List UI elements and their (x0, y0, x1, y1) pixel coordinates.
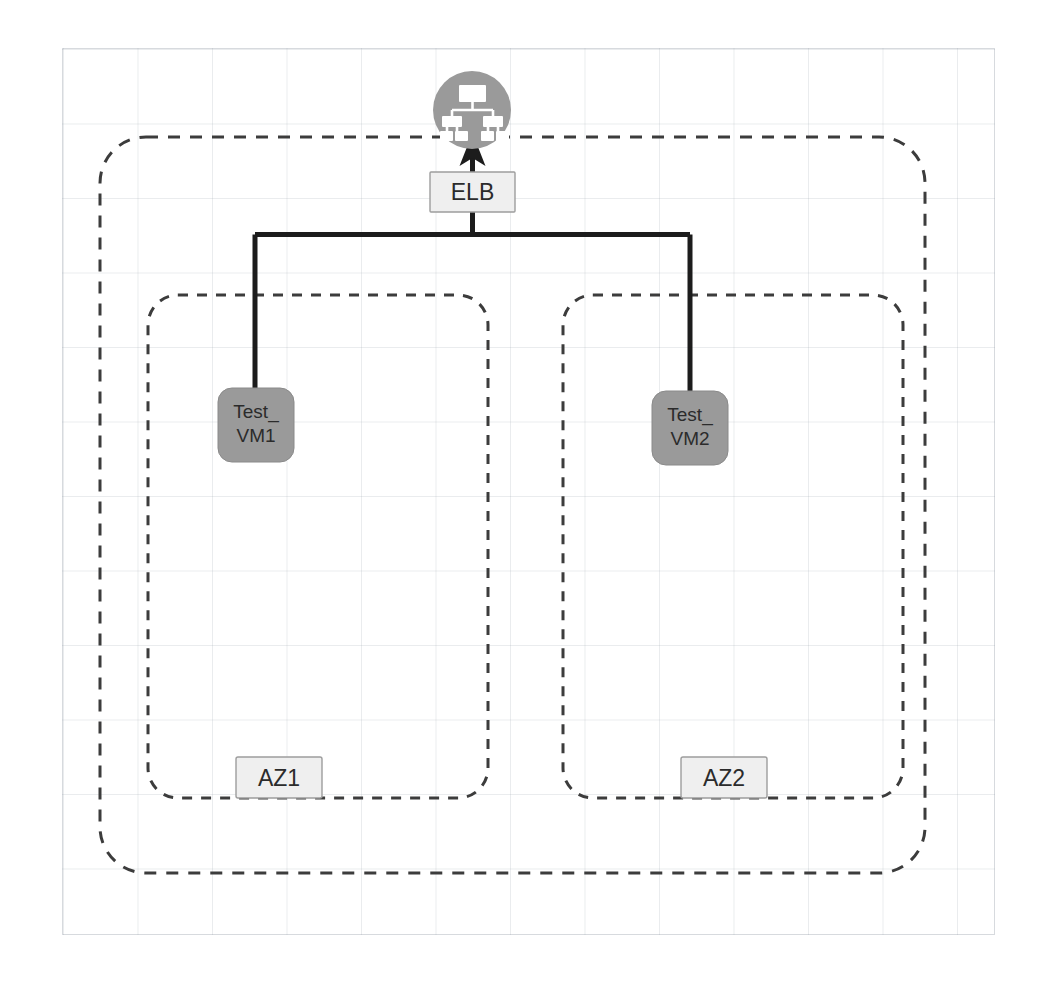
instance-test-vm2-label-line2: VM2 (670, 428, 709, 449)
region-container (100, 137, 925, 873)
availability-zone-1-label[interactable]: AZ1 (236, 757, 322, 798)
diagram-stage: ELB Test_ VM1 Test_ VM2 AZ1 AZ2 (0, 0, 1046, 988)
instance-test-vm2[interactable]: Test_ VM2 (652, 391, 728, 465)
availability-zone-2-container (563, 295, 903, 798)
instance-test-vm1-label-line1: Test_ (233, 401, 279, 423)
availability-zone-2-label[interactable]: AZ2 (681, 757, 767, 798)
availability-zone-1-label-text: AZ1 (258, 765, 300, 791)
elb-node[interactable]: ELB (430, 172, 515, 212)
availability-zone-2-label-text: AZ2 (703, 765, 745, 791)
availability-zone-1-container (148, 295, 488, 798)
elb-label: ELB (451, 179, 494, 205)
instance-test-vm1-label-line2: VM1 (236, 425, 275, 446)
internet-icon (433, 71, 511, 149)
instance-test-vm2-label-line1: Test_ (667, 404, 713, 426)
diagram-svg: ELB Test_ VM1 Test_ VM2 AZ1 AZ2 (0, 0, 1046, 988)
instance-test-vm1[interactable]: Test_ VM1 (218, 388, 294, 462)
